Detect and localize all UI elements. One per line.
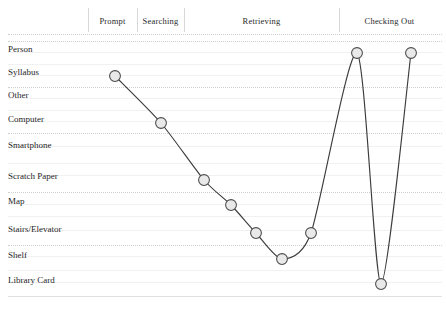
phase-header-prompt: Prompt: [88, 10, 137, 32]
gridline-computer: [8, 110, 442, 111]
y-axis-label-shelf: Shelf: [8, 250, 27, 261]
y-axis-label-person: Person: [8, 44, 33, 55]
y-axis-label-scratch-paper: Scratch Paper: [8, 171, 58, 182]
gridline-faint-5: [8, 175, 442, 176]
y-axis-label-other: Other: [8, 90, 29, 101]
data-point-9-person[interactable]: [406, 48, 417, 59]
gridline-person: [8, 41, 442, 42]
data-point-1-computer[interactable]: [156, 118, 167, 129]
gridline-smartphone: [8, 133, 442, 134]
phase-separator-3: [339, 8, 340, 32]
data-point-7-person[interactable]: [352, 48, 363, 59]
y-axis-label-smartphone: Smartphone: [8, 140, 52, 151]
gridline-faint-1: [8, 75, 442, 76]
y-axis-label-map: Map: [8, 196, 25, 207]
phase-separator-2: [184, 8, 185, 32]
phase-separator-0: [88, 8, 89, 32]
y-axis-label-computer: Computer: [8, 114, 44, 125]
gridline-other: [8, 87, 442, 88]
phase-separator-1: [137, 8, 138, 32]
gridline-syllabus: [8, 64, 442, 65]
gridline-faint-0: [8, 52, 442, 53]
gridline-faint-6: [8, 204, 442, 205]
phase-header-retrieving: Retrieving: [184, 10, 339, 32]
gridline-faint-8: [8, 256, 442, 257]
gridline-map: [8, 192, 442, 193]
series-plot: [0, 0, 446, 311]
gridline-faint-9: [8, 282, 442, 283]
y-axis-label-library-card: Library Card: [8, 275, 55, 286]
series-marker-group: [110, 48, 417, 290]
data-point-2-scratch-paper[interactable]: [199, 175, 210, 186]
y-axis-label-syllabus: Syllabus: [8, 67, 39, 78]
chart-bottom-rule: [8, 296, 442, 297]
library-journey-chart: PromptSearchingRetrievingChecking Out Pe…: [0, 0, 446, 311]
gridline-faint-4: [8, 146, 442, 147]
gridline-library-card: [8, 270, 442, 271]
gridline-stairs-elevator: [8, 216, 442, 217]
gridline-shelf: [8, 245, 442, 246]
gridline-faint-3: [8, 121, 442, 122]
phase-header-checking-out: Checking Out: [339, 10, 440, 32]
gridline-faint-7: [8, 230, 442, 231]
gridline-scratch-paper: [8, 163, 442, 164]
data-point-0-syllabus[interactable]: [110, 71, 121, 82]
gridline-faint-2: [8, 98, 442, 99]
phase-header-searching: Searching: [137, 10, 184, 32]
gridline-top: [8, 34, 442, 35]
data-point-3-map[interactable]: [226, 200, 237, 211]
data-point-8-library-card[interactable]: [376, 279, 387, 290]
y-axis-label-stairs-elevator: Stairs/Elevator: [8, 224, 62, 235]
